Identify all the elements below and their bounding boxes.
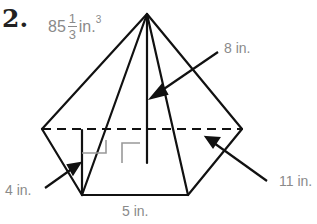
label-side: 5 in.: [122, 203, 148, 219]
problem-number: 2.: [2, 4, 28, 33]
answer-whole: 85: [48, 18, 66, 36]
pyramid-problem: 2. 85 1 3 in.3 8 in. 4 in. 5 in. 11 in.: [0, 0, 317, 224]
volume-answer: 85 1 3 in.3: [48, 12, 101, 41]
answer-fraction: 1 3: [68, 12, 77, 41]
label-apothem: 4 in.: [5, 182, 31, 198]
label-slant-height: 8 in.: [224, 40, 250, 56]
answer-unit: in.: [79, 18, 96, 36]
label-height: 11 in.: [279, 173, 312, 189]
